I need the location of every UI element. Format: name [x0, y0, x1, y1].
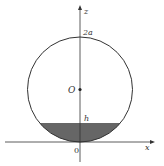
x-axis-arrow-icon [150, 140, 155, 144]
center-point [78, 88, 81, 91]
top-label: 2a [82, 28, 93, 37]
sphere-diagram: z x 2a O h 0 [0, 0, 164, 166]
level-label: h [84, 114, 89, 123]
z-axis-label: z [83, 7, 89, 16]
x-axis-label: x [145, 143, 150, 152]
origin-label: 0 [74, 146, 79, 155]
center-label: O [68, 85, 76, 95]
z-axis-arrow-icon [78, 5, 82, 10]
